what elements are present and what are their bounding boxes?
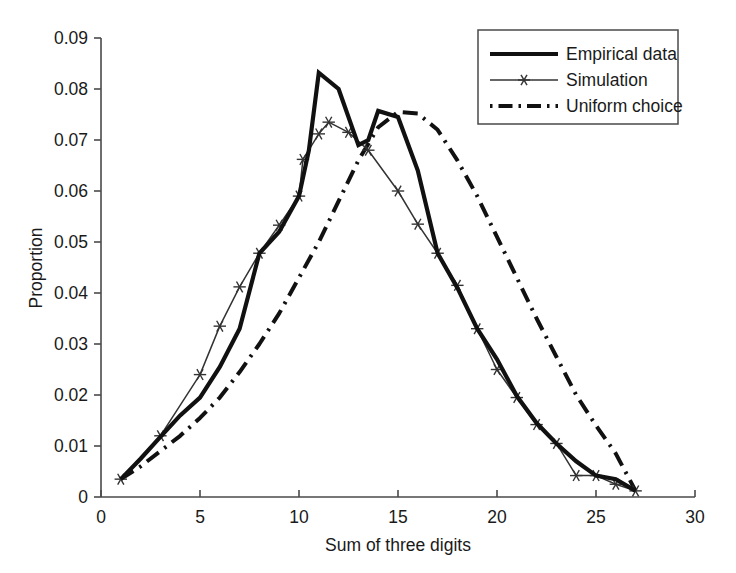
asterisk-icon xyxy=(214,321,226,332)
series-group xyxy=(115,73,642,497)
y-tick-label: 0.03 xyxy=(54,334,88,354)
asterisk-icon xyxy=(313,128,325,139)
y-tick-label: 0.01 xyxy=(54,436,88,456)
legend: Empirical data Simulation Uniform choice xyxy=(478,30,683,124)
asterisk-icon xyxy=(392,186,404,197)
x-tick-label: 15 xyxy=(388,507,407,527)
y-tick-label: 0.05 xyxy=(54,232,88,252)
series-uniform-choice xyxy=(121,112,636,491)
x-tick-label: 20 xyxy=(487,507,507,527)
y-tick-label: 0.07 xyxy=(54,130,88,150)
asterisk-icon xyxy=(194,369,206,380)
y-tick-label: 0.08 xyxy=(54,79,88,99)
series-simulation-markers xyxy=(115,117,642,497)
series-empirical-data xyxy=(121,73,636,491)
asterisk-icon xyxy=(570,470,582,481)
y-axis-ticks: 00.010.020.030.040.050.060.070.080.09 xyxy=(54,28,101,507)
legend-label-uniform-choice: Uniform choice xyxy=(566,96,683,116)
series-simulation xyxy=(121,122,636,491)
x-tick-label: 5 xyxy=(195,507,205,527)
chart-figure: 00.010.020.030.040.050.060.070.080.09 05… xyxy=(0,0,736,573)
x-tick-label: 0 xyxy=(96,507,106,527)
asterisk-icon xyxy=(233,281,245,292)
x-tick-label: 25 xyxy=(586,507,605,527)
legend-label-simulation: Simulation xyxy=(566,70,648,90)
x-tick-label: 30 xyxy=(685,507,705,527)
y-tick-label: 0.02 xyxy=(54,385,88,405)
line-chart: 00.010.020.030.040.050.060.070.080.09 05… xyxy=(0,0,736,573)
asterisk-icon xyxy=(323,117,335,128)
asterisk-icon xyxy=(412,219,424,230)
x-axis-ticks: 051015202530 xyxy=(96,490,705,527)
x-tick-label: 10 xyxy=(289,507,309,527)
legend-label-empirical-data: Empirical data xyxy=(566,44,677,64)
y-tick-label: 0 xyxy=(78,487,88,507)
y-tick-label: 0.09 xyxy=(54,28,88,48)
y-tick-label: 0.06 xyxy=(54,181,88,201)
x-axis-title: Sum of three digits xyxy=(325,535,471,555)
y-axis-title: Proportion xyxy=(26,228,46,309)
y-tick-label: 0.04 xyxy=(54,283,88,303)
